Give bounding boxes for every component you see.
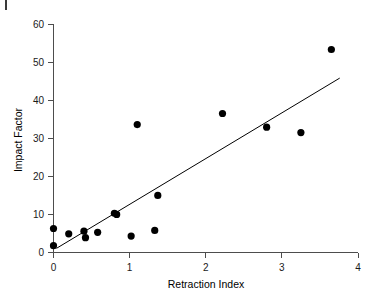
data-point <box>94 229 101 236</box>
y-tick-label: 60 <box>33 19 45 30</box>
data-point <box>82 234 89 241</box>
y-tick-label: 0 <box>38 247 44 258</box>
data-point <box>297 129 304 136</box>
chart-figure: 0102030405060 01234 Retraction Index Imp… <box>0 0 379 295</box>
x-tick-label: 2 <box>203 262 209 273</box>
data-point <box>113 211 120 218</box>
data-point <box>65 230 72 237</box>
x-axis-ticks: 01234 <box>51 253 362 274</box>
y-tick-label: 30 <box>33 133 45 144</box>
x-tick-label: 0 <box>51 262 57 273</box>
data-point <box>219 110 226 117</box>
data-point <box>154 192 161 199</box>
data-point <box>80 228 87 235</box>
x-tick-label: 3 <box>279 262 285 273</box>
data-points-group <box>50 46 335 249</box>
trend-line <box>57 78 340 248</box>
y-axis-title: Impact Factor <box>12 107 24 172</box>
data-point <box>50 225 57 232</box>
data-point <box>50 242 57 249</box>
data-point <box>128 233 135 240</box>
y-axis-ticks: 0102030405060 <box>33 19 54 259</box>
x-tick-label: 1 <box>127 262 133 273</box>
y-tick-label: 40 <box>33 95 45 106</box>
scatter-plot: 0102030405060 01234 Retraction Index Imp… <box>0 0 379 295</box>
trend-line-group <box>57 78 340 248</box>
data-point <box>151 227 158 234</box>
data-point <box>134 121 141 128</box>
y-tick-label: 20 <box>33 171 45 182</box>
y-tick-label: 10 <box>33 209 45 220</box>
y-tick-label: 50 <box>33 57 45 68</box>
data-point <box>328 46 335 53</box>
x-axis-title: Retraction Index <box>168 278 245 290</box>
data-point <box>263 124 270 131</box>
x-tick-label: 4 <box>355 262 361 273</box>
